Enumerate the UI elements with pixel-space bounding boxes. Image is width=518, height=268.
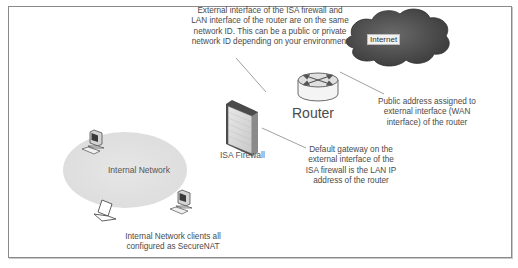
annotation-wan-address: Public address assigned to external inte… xyxy=(362,97,492,128)
router-label: Router xyxy=(292,105,334,121)
annotation-line: External interface of the ISA firewall a… xyxy=(172,6,368,16)
annotation-line: external interface (WAN xyxy=(362,107,492,117)
internet-label: Internet xyxy=(367,34,400,45)
firewall-label: ISA Firewall xyxy=(220,150,265,160)
leader-line-shared-network xyxy=(236,58,266,92)
annotation-shared-network: External interface of the ISA firewall a… xyxy=(172,6,368,48)
annotation-line: configured as SecureNAT xyxy=(108,242,238,252)
annotation-line: Internal Network clients all xyxy=(108,232,238,242)
annotation-line: interface) of the router xyxy=(362,118,492,128)
annotation-line: ISA firewall is the LAN IP xyxy=(292,166,410,176)
annotation-clients: Internal Network clients all configured … xyxy=(108,232,238,253)
annotation-line: address of the router xyxy=(292,176,410,186)
annotation-line: Default gateway on the xyxy=(292,145,410,155)
annotation-line: external interface of the xyxy=(292,155,410,165)
annotation-line: LAN interface of the router are on the s… xyxy=(172,16,368,26)
leader-line-wan xyxy=(340,72,384,94)
annotation-line: Public address assigned to xyxy=(362,97,492,107)
annotation-line: network ID. This can be a public or priv… xyxy=(172,27,368,37)
router-icon xyxy=(298,73,338,101)
annotation-default-gateway: Default gateway on the external interfac… xyxy=(292,145,410,187)
internal-network-label: Internal Network xyxy=(108,165,170,175)
annotation-line: network ID depending on your environment xyxy=(172,37,368,47)
firewall-icon xyxy=(226,100,258,156)
